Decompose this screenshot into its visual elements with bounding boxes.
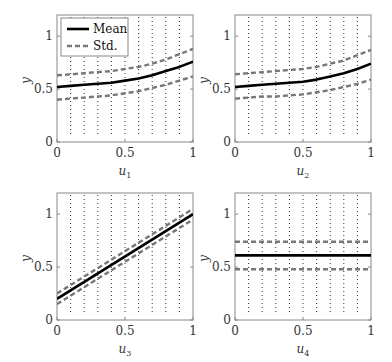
x-tick-label: 1 [367, 324, 375, 338]
std-line [57, 209, 193, 294]
x-tick-label: 0.5 [293, 324, 312, 338]
subplot-u4: 00.5100.51yu4 [197, 193, 375, 358]
x-tick-label: 0.5 [115, 146, 134, 160]
grid-lines [71, 195, 180, 312]
subplot-u2: 00.5100.51yu2 [197, 15, 375, 180]
y-tick-label: 0.5 [212, 260, 231, 274]
mean-line [235, 64, 371, 87]
y-axis-label: y [197, 77, 211, 85]
x-tick-label: 0 [53, 324, 61, 338]
y-tick-label: 1 [45, 29, 53, 43]
y-tick-label: 0.5 [212, 82, 231, 96]
legend: MeanStd. [61, 18, 128, 56]
subplot-u3: 00.5100.51yu3 [19, 193, 197, 358]
y-axis-label: y [19, 77, 33, 85]
x-tick-label: 0.5 [293, 146, 312, 160]
y-axis-label: y [19, 255, 33, 263]
x-axis-label: u4 [297, 342, 310, 358]
x-tick-label: 0 [231, 324, 239, 338]
x-tick-label: 0 [53, 146, 61, 160]
y-tick-label: 0 [223, 313, 231, 327]
x-axis-label: u3 [119, 342, 132, 358]
grid-lines [249, 17, 358, 134]
mean-line [57, 214, 193, 299]
x-axis-label: u2 [297, 164, 310, 180]
plot-frame [235, 15, 371, 142]
x-tick-label: 0.5 [115, 324, 134, 338]
x-tick-label: 1 [189, 324, 197, 338]
subplot-u1: 00.5100.51yu1MeanStd. [19, 15, 197, 180]
y-tick-label: 0.5 [34, 260, 53, 274]
legend-mean-label: Mean [93, 22, 128, 36]
y-tick-label: 0 [223, 135, 231, 149]
grid-lines [249, 195, 358, 312]
figure: 00.5100.51yu1MeanStd.00.5100.51yu200.510… [0, 0, 392, 362]
legend-std-label: Std. [93, 39, 118, 53]
y-axis-label: y [197, 255, 211, 263]
y-tick-label: 1 [45, 207, 53, 221]
x-tick-label: 1 [189, 146, 197, 160]
y-tick-label: 1 [223, 29, 231, 43]
y-tick-label: 0 [45, 135, 53, 149]
y-tick-label: 0 [45, 313, 53, 327]
x-tick-label: 1 [367, 146, 375, 160]
x-axis-label: u1 [119, 164, 132, 180]
y-tick-label: 0.5 [34, 82, 53, 96]
x-tick-label: 0 [231, 146, 239, 160]
y-tick-label: 1 [223, 207, 231, 221]
